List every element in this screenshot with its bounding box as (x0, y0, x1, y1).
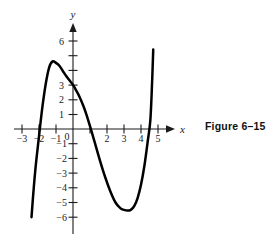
y-tick-label: −3 (56, 168, 67, 179)
x-tick-label: 3 (122, 133, 127, 144)
y-tick-label: −5 (56, 197, 67, 208)
y-tick-label: −6 (56, 212, 67, 223)
x-tick-label: 4 (139, 133, 144, 144)
y-axis-label: y (70, 8, 76, 20)
y-tick-label: 6 (59, 36, 64, 47)
x-tick-label: 2 (105, 133, 110, 144)
y-tick-label: 1 (59, 109, 64, 120)
y-tick-label: −1 (56, 138, 67, 149)
x-tick-label: 5 (156, 133, 161, 144)
figure-container: −3 −2 −1 0 2 3 4 5 6 3 2 1 −1 −2 −3 −4 −… (0, 0, 280, 246)
y-tick-label: 2 (59, 94, 64, 105)
y-tick-label: −2 (56, 153, 67, 164)
figure-caption: Figure 6–15 (205, 120, 266, 132)
y-axis-arrow-icon (69, 23, 76, 32)
x-axis-label: x (179, 123, 185, 135)
y-tick-label: −4 (56, 182, 67, 193)
y-tick-label: 3 (59, 80, 64, 91)
x-axis-arrow-icon (166, 125, 175, 132)
x-tick-label: −3 (17, 133, 28, 144)
